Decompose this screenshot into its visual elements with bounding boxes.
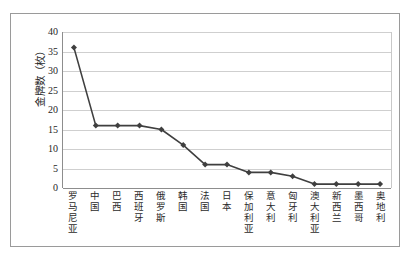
y-axis-tick-labels: 4035302520151050 bbox=[32, 32, 58, 188]
x-tick-label: 新西兰 bbox=[331, 191, 343, 224]
x-tick-label: 西班牙 bbox=[133, 191, 145, 224]
x-tick-label: 澳大利亚 bbox=[309, 191, 321, 235]
y-tick-35: 35 bbox=[36, 47, 58, 57]
data-point-marker bbox=[246, 169, 252, 175]
x-tick-label: 保加利亚 bbox=[243, 191, 255, 235]
y-tick-20: 20 bbox=[36, 105, 58, 115]
y-tick-25: 25 bbox=[36, 86, 58, 96]
data-point-marker bbox=[115, 123, 121, 129]
data-point-marker bbox=[71, 45, 77, 51]
data-point-marker bbox=[93, 123, 99, 129]
data-point-marker bbox=[333, 181, 339, 187]
data-point-marker bbox=[290, 173, 296, 179]
y-tick-40: 40 bbox=[36, 27, 58, 37]
x-tick-label: 中国 bbox=[89, 191, 101, 213]
x-tick-label: 罗马尼亚 bbox=[67, 191, 79, 235]
x-tick-label: 俄罗斯 bbox=[155, 191, 167, 224]
data-point-marker bbox=[355, 181, 361, 187]
data-point-marker bbox=[224, 162, 230, 168]
data-point-marker bbox=[137, 123, 143, 129]
chart-figure-frame: 金牌数（枚） 4035302520151050 罗马尼亚中国巴西西班牙俄罗斯韩国… bbox=[10, 13, 400, 247]
x-tick-label: 法国 bbox=[199, 191, 211, 213]
x-tick-label: 巴西 bbox=[111, 191, 123, 213]
x-tick-label: 意大利 bbox=[265, 191, 277, 224]
x-tick-label: 墨西哥 bbox=[353, 191, 365, 224]
y-tick-15: 15 bbox=[36, 125, 58, 135]
plot-area bbox=[62, 32, 392, 188]
gridline-0 bbox=[63, 188, 391, 189]
y-tick-0: 0 bbox=[36, 183, 58, 193]
y-tick-5: 5 bbox=[36, 164, 58, 174]
line-series bbox=[63, 32, 391, 188]
x-axis-tick-labels: 罗马尼亚中国巴西西班牙俄罗斯韩国法国日本保加利亚意大利匈牙利澳大利亚新西兰墨西哥… bbox=[62, 191, 392, 245]
x-tick-label: 奥地利 bbox=[375, 191, 387, 224]
data-point-marker bbox=[268, 169, 274, 175]
x-tick-label: 韩国 bbox=[177, 191, 189, 213]
y-tick-30: 30 bbox=[36, 66, 58, 76]
data-point-marker bbox=[377, 181, 383, 187]
data-point-marker bbox=[311, 181, 317, 187]
x-tick-label: 匈牙利 bbox=[287, 191, 299, 224]
y-tick-10: 10 bbox=[36, 144, 58, 154]
x-tick-label: 日本 bbox=[221, 191, 233, 213]
